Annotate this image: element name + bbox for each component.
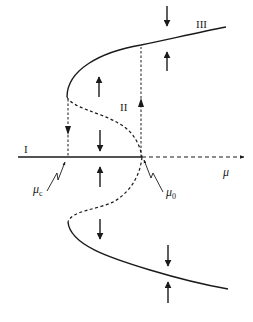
bifurcation-diagram: I II III μ μc μ0 — [0, 0, 253, 322]
mu-0-leader-zigzag — [144, 160, 163, 192]
label-mu-axis: μ — [222, 165, 229, 179]
branch-upper-unstable — [67, 97, 142, 157]
branch-III-upper-stable — [67, 27, 226, 97]
label-mu-0: μ0 — [165, 185, 176, 201]
label-mu-c: μc — [32, 182, 43, 198]
branch-III-lower-stable — [68, 222, 228, 289]
label-branch-II: II — [120, 101, 128, 113]
label-branch-III: III — [196, 18, 207, 30]
branch-lower-unstable — [68, 157, 142, 222]
jump-down-arrowhead — [65, 126, 71, 135]
jump-II-arrowhead — [138, 98, 144, 107]
mu-c-leader-zigzag — [47, 162, 65, 191]
label-branch-I: I — [24, 143, 28, 155]
